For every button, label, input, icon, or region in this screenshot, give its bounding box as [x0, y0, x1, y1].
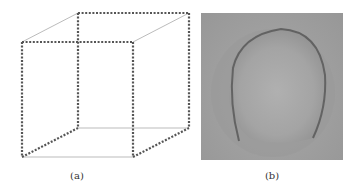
cube-diagram [0, 0, 200, 192]
cube-edge-dotted [133, 128, 189, 157]
cube-edge-solid [22, 13, 78, 42]
tennis-ball-image [201, 13, 343, 160]
cube-edge-solid [133, 13, 189, 42]
caption-a: (a) [57, 170, 97, 181]
cube-edge-dotted [22, 128, 78, 157]
tennis-ball-photo [201, 13, 343, 160]
caption-b: (b) [252, 170, 292, 181]
